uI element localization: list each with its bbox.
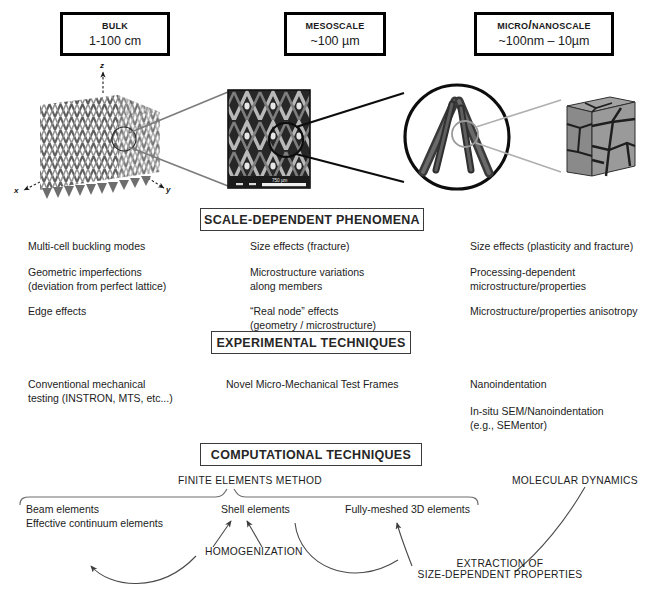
scale-range-bulk: 1-100 cm [69,34,161,49]
experimental-bulk-item-1: Conventional mechanical testing (INSTRON… [28,378,228,406]
x-axis-arrow [24,182,40,190]
axis-label-y: y [166,185,170,194]
phenomena-micro-item-3: Microstructure/properties anisotropy [470,305,650,319]
phenomena-meso-item-1: Size effects (fracture) [250,240,440,254]
y-axis-arrow [148,178,164,188]
label-finite-elements-method: FINITE ELEMENTS METHOD [178,475,322,486]
scale-range-meso: ~100 µm [293,34,377,49]
sem-scale-bar [262,183,306,186]
phenomena-bulk-item-3: Edge effects [28,305,218,319]
scale-range-micronano: ~100nm – 10µm [483,34,605,49]
computational-method-beam: Beam elements Effective continuum elemen… [26,503,226,531]
section-header-experimental-techniques: EXPERIMENTAL TECHNIQUES [211,331,411,354]
experimental-meso-item-1: Novel Micro-Mechanical Test Frames [226,378,456,392]
scale-box-micronano: Micro/Nanoscale ~100nm – 10µm [474,12,614,56]
scale-box-bulk: Bulk 1-100 cm [60,12,170,56]
mesoscale-sem-image: 750 µm [228,90,310,188]
phenomena-micro-item-2: Processing-dependent microstructure/prop… [470,266,650,294]
axis-label-z: z [100,61,104,70]
experimental-micro-item-2: In-situ SEM/Nanoindentation (e.g., SEMen… [470,405,650,433]
node-detail-circle [405,85,509,189]
axis-label-x: x [14,186,18,195]
experimental-micro-item-1: Nanoindentation [470,378,650,392]
sem-scale-bar-label: 750 µm [272,178,288,183]
bulk-lattice-image [40,95,160,199]
section-header-computational-techniques: COMPUTATIONAL TECHNIQUES [200,443,422,466]
connector-meso-to-node [296,93,404,182]
phenomena-micro-item-1: Size effects (plasticity and fracture) [470,240,650,254]
label-homogenization: HOMOGENIZATION [205,546,303,557]
section-header-scale-dependent-phenomena: SCALE-DEPENDENT PHENOMENA [200,208,424,231]
phenomena-bulk-item-1: Multi-cell buckling modes [28,240,218,254]
arrow-shell-to-fullymeshed-curve [295,523,398,573]
computational-method-shell: Shell elements [221,503,341,517]
scale-box-meso: Mesoscale ~100 µm [284,12,386,56]
phenomena-bulk-item-2: Geometric imperfections (deviation from … [28,266,228,294]
label-extraction-size-dependent-properties: EXTRACTION OF SIZE-DEPENDENT PROPERTIES [405,558,595,580]
micro-nanoscale-grain-image [567,97,635,176]
scale-title-meso: Mesoscale [293,18,377,33]
scale-title-micronano: Micro/Nanoscale [483,18,605,33]
label-molecular-dynamics: MOLECULAR DYNAMICS [512,475,638,486]
arrow-homogenization-to-beam [91,556,196,584]
phenomena-meso-item-2: Microstructure variations along members [250,266,440,294]
scale-title-bulk: Bulk [69,18,161,33]
phenomena-meso-item-3: “Real node” effects (geometry / microstr… [250,305,440,333]
computational-method-fullymeshed: Fully-meshed 3D elements [345,503,505,517]
